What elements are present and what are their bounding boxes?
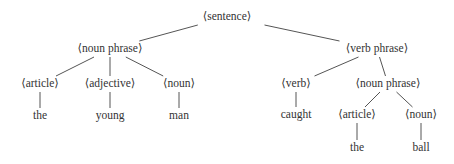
word-man: man xyxy=(169,110,189,122)
node-article-2: ⟨article⟩ xyxy=(338,109,376,121)
parse-tree-diagram: ⟨sentence⟩ ⟨noun phrase⟩ ⟨verb phrase⟩ ⟨… xyxy=(0,0,454,164)
word-ball: ball xyxy=(412,142,429,154)
node-adjective: ⟨adjective⟩ xyxy=(85,78,135,90)
tree-edge xyxy=(139,25,198,41)
tree-edge xyxy=(56,57,94,76)
node-noun-phrase-2: ⟨noun phrase⟩ xyxy=(356,78,421,90)
word-the: the xyxy=(33,110,47,122)
word-young: young xyxy=(96,110,125,122)
tree-edge xyxy=(126,57,163,76)
node-noun: ⟨noun⟩ xyxy=(163,78,195,90)
node-noun-phrase: ⟨noun phrase⟩ xyxy=(78,43,143,55)
node-noun-2: ⟨noun⟩ xyxy=(405,109,437,121)
tree-edge xyxy=(380,57,386,76)
node-verb-phrase: ⟨verb phrase⟩ xyxy=(346,43,408,55)
tree-edge xyxy=(315,57,359,76)
word-caught: caught xyxy=(281,109,312,121)
node-verb: ⟨verb⟩ xyxy=(281,78,310,90)
node-article: ⟨article⟩ xyxy=(21,78,59,90)
tree-edge xyxy=(265,25,340,41)
node-sentence: ⟨sentence⟩ xyxy=(203,11,252,23)
tree-edge xyxy=(365,92,380,107)
word-the-2: the xyxy=(350,142,364,154)
tree-edge xyxy=(397,92,413,107)
